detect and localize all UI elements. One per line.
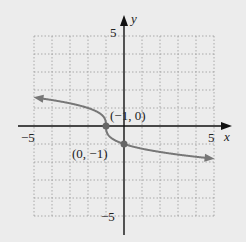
x-axis-label: x	[223, 129, 230, 144]
y-axis-label: y	[129, 11, 137, 26]
y-max-label: 5	[110, 25, 117, 40]
y-min-label: −5	[101, 209, 115, 224]
point-neg1-0	[103, 123, 110, 130]
point2-label: (0, −1)	[72, 146, 108, 161]
point1-label: (−1, 0)	[110, 108, 146, 123]
x-min-label: −5	[21, 130, 35, 145]
point-0-neg1	[121, 141, 128, 148]
x-max-label: 5	[208, 130, 215, 145]
graph: y x 5 −5 −5 5 (−1, 0) (0, −1)	[0, 0, 246, 242]
